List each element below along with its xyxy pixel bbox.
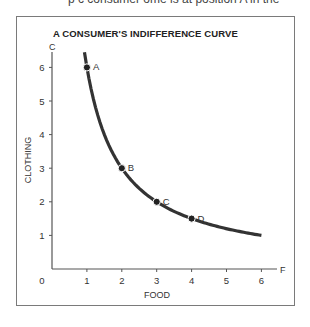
chart-title: A CONSUMER'S INDIFFERENCE CURVE	[53, 28, 238, 39]
x-tick-label: 4	[189, 275, 194, 286]
point-label: A	[93, 61, 100, 72]
point-label: D	[198, 213, 205, 224]
x-axis-title: FOOD	[144, 290, 170, 300]
y-tick-label: 4	[39, 129, 44, 140]
curve-path	[84, 52, 261, 235]
indifference-curve	[84, 52, 261, 235]
y-axis-title: CLOTHING	[23, 137, 33, 184]
point-label: B	[128, 162, 134, 173]
y-tick-label: 6	[39, 62, 44, 73]
y-tick-label: 3	[39, 163, 44, 174]
axes: CF1234560123456FOODCLOTHING	[23, 42, 286, 300]
x-tick-label: 6	[259, 275, 264, 286]
point-d: D	[188, 213, 205, 224]
point-marker	[118, 165, 125, 172]
indifference-curve-chart: A CONSUMER'S INDIFFERENCE CURVE CF123456…	[0, 0, 310, 327]
y-tick-label: 1	[39, 230, 44, 241]
point-marker	[153, 198, 160, 205]
curve-points: ABCD	[83, 61, 204, 223]
point-marker	[188, 215, 195, 222]
y-tick-label: 5	[39, 96, 44, 107]
x-tick-label: 5	[224, 275, 229, 286]
y-tick-label: 2	[39, 196, 44, 207]
origin-label: 0	[39, 275, 44, 286]
x-tick-label: 2	[119, 275, 124, 286]
point-label: C	[163, 196, 170, 207]
x-tick-label: 3	[154, 275, 159, 286]
point-marker	[83, 64, 90, 71]
x-axis-end-label: F	[280, 265, 286, 275]
x-tick-label: 1	[84, 275, 89, 286]
y-axis-end-label: C	[49, 42, 56, 52]
